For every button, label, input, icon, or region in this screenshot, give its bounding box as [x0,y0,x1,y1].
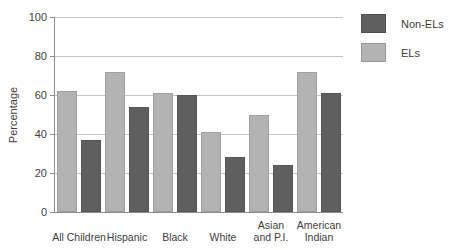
bar-group-asian-and-p-i [247,17,295,212]
y-tick-label-20: 20 [8,167,47,179]
bar-group-all-children [55,17,103,212]
legend-label-non-els: Non-ELs [401,18,444,30]
legend-label-els: ELs [401,47,420,59]
bar-group-american-indian [295,17,343,212]
bar-els-white [201,132,221,212]
y-tick-label-40: 40 [8,128,47,140]
bar-group-white [199,17,247,212]
y-tick-mark-0 [50,212,55,213]
y-tick-label-80: 80 [8,50,47,62]
y-tick-label-100: 100 [8,11,47,23]
legend-entry-non-els: Non-ELs [361,14,444,33]
x-tick-label-american-indian: American Indian [284,217,354,243]
bar-group-hispanic [103,17,151,212]
bar-els-hispanic [105,72,125,212]
bar-non-els-all-children [81,140,101,212]
legend-entry-els: ELs [361,43,444,62]
bar-els-american-indian [297,72,317,212]
bar-group-black [151,17,199,212]
y-tick-label-60: 60 [8,89,47,101]
bar-non-els-white [225,157,245,212]
bar-chart-figure: Percentage 020406080100All ChildrenHispa… [0,0,460,250]
plot-area: 020406080100All ChildrenHispanicBlackWhi… [54,17,343,213]
bar-els-black [153,93,173,212]
bar-els-asian-and-p-i [249,115,269,213]
bar-els-all-children [57,91,77,212]
y-tick-label-0: 0 [8,206,47,218]
legend: Non-ELs ELs [361,14,444,62]
legend-swatch-non-els [361,14,386,33]
y-axis-title: Percentage [7,17,21,213]
bar-non-els-american-indian [321,93,341,212]
bar-non-els-hispanic [129,107,149,212]
bar-non-els-black [177,95,197,212]
bar-non-els-asian-and-p-i [273,165,293,212]
legend-swatch-els [361,43,386,62]
